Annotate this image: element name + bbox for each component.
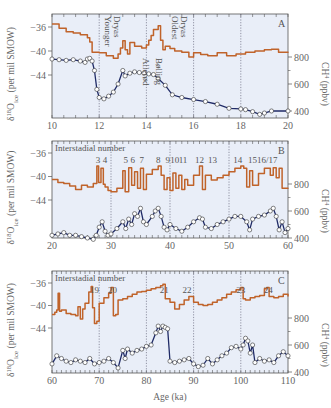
ch4-data-point bbox=[109, 232, 113, 236]
ch4-data-point bbox=[187, 356, 191, 360]
panel-letter: C bbox=[278, 275, 285, 286]
ch4-data-point bbox=[170, 93, 174, 97]
ch4-data-point bbox=[100, 220, 104, 224]
period-annotation: Bølling bbox=[154, 58, 164, 86]
x-tick-label: 10 bbox=[47, 120, 57, 131]
ch4-data-point bbox=[50, 57, 54, 61]
ch4-data-point bbox=[88, 356, 92, 360]
ch4-data-point bbox=[62, 231, 66, 235]
x-tick-label: 14 bbox=[141, 120, 151, 131]
ch4-data-point bbox=[215, 102, 219, 106]
ch4-data-point bbox=[168, 359, 172, 363]
right-y-tick-label: 800 bbox=[294, 179, 309, 190]
ch4-data-point bbox=[55, 354, 59, 358]
ch4-data-point bbox=[173, 360, 177, 364]
x-tick-label: 20 bbox=[283, 120, 293, 131]
ch4-data-point bbox=[241, 343, 245, 347]
ch4-data-point bbox=[174, 226, 178, 230]
ch4-data-point bbox=[111, 360, 115, 364]
ch4-data-point bbox=[50, 233, 54, 237]
x-tick-label: 80 bbox=[141, 375, 151, 386]
ch4-data-point bbox=[107, 356, 111, 360]
ch4-data-point bbox=[71, 58, 75, 62]
ch4-data-point bbox=[144, 222, 148, 226]
left-y-axis-label: δ18Oice (per mil SMOW) bbox=[5, 283, 21, 377]
ch4-data-point bbox=[182, 358, 186, 362]
ch4-data-point bbox=[251, 217, 255, 221]
right-y-tick-label: 800 bbox=[294, 52, 309, 63]
ch4-data-point bbox=[159, 214, 163, 218]
ch4-data-point bbox=[271, 206, 275, 210]
period-annotation: Oldest bbox=[170, 16, 180, 40]
left-y-tick-label: −44 bbox=[30, 323, 46, 334]
ch4-data-point bbox=[220, 354, 224, 358]
ch4-data-point bbox=[102, 97, 106, 101]
ch4-data-point bbox=[203, 99, 207, 103]
ch4-data-point bbox=[280, 220, 284, 224]
panel-A: 101214161820−36−40−44800600400δ18Oice (p… bbox=[5, 14, 331, 131]
ch4-data-point bbox=[94, 233, 98, 237]
ch4-data-point bbox=[149, 343, 153, 347]
ch4-data-point bbox=[116, 366, 120, 370]
x-tick-label: 16 bbox=[189, 120, 199, 131]
ch4-data-point bbox=[196, 365, 200, 369]
x-tick-label: 20 bbox=[47, 240, 57, 251]
ch4-data-point bbox=[90, 59, 94, 63]
ch4-data-point bbox=[186, 225, 190, 229]
ch4-data-point bbox=[276, 354, 280, 358]
ch4-data-point bbox=[123, 356, 127, 360]
panel-letter: B bbox=[278, 145, 285, 156]
x-tick-label: 100 bbox=[233, 375, 248, 386]
interstadial-label: 16/17 bbox=[257, 155, 278, 165]
interstadial-label: 12 bbox=[195, 155, 204, 165]
ch4-data-point bbox=[203, 225, 207, 229]
ch4-data-point bbox=[283, 231, 287, 235]
ch4-data-point bbox=[227, 106, 231, 110]
ch4-data-point bbox=[272, 360, 276, 364]
interstadial-label: 21 bbox=[160, 285, 169, 295]
right-y-axis-label: CH4 (ppbv) bbox=[319, 189, 330, 233]
ch4-data-point bbox=[130, 351, 134, 355]
ch4-data-point bbox=[103, 229, 107, 233]
interstadial-label: 23 bbox=[236, 285, 246, 295]
ch4-data-point bbox=[102, 359, 106, 363]
ch4-data-point bbox=[245, 220, 249, 224]
x-tick-label: 50 bbox=[224, 240, 234, 251]
ch4-data-point bbox=[127, 217, 131, 221]
ch4-data-point bbox=[97, 95, 101, 99]
ch4-data-point bbox=[74, 358, 78, 362]
ch4-data-point bbox=[262, 359, 266, 363]
ch4-data-point bbox=[239, 347, 243, 351]
left-y-tick-label: −40 bbox=[30, 300, 46, 311]
ch4-data-point bbox=[116, 82, 120, 86]
right-y-axis-label: CH4 (ppbv) bbox=[319, 62, 330, 106]
ch4-data-point bbox=[158, 329, 162, 333]
interstadial-label: 14 bbox=[233, 155, 243, 165]
right-y-tick-label: 400 bbox=[294, 233, 309, 244]
ch4-data-point bbox=[277, 228, 281, 232]
ch4-data-point bbox=[200, 217, 204, 221]
ch4-data-point bbox=[83, 360, 87, 364]
x-tick-label: 18 bbox=[236, 120, 246, 131]
interstadial-label: 6 bbox=[131, 155, 136, 165]
ch4-data-point bbox=[234, 344, 238, 348]
ch4-data-point bbox=[253, 360, 257, 364]
ch4-data-point bbox=[97, 225, 101, 229]
ch4-data-point bbox=[233, 214, 237, 218]
x-tick-label: 30 bbox=[106, 240, 116, 251]
ch4-data-point bbox=[209, 226, 213, 230]
ch4-data-point bbox=[258, 112, 262, 116]
ch4-data-point bbox=[68, 233, 72, 237]
interstadial-label: 4 bbox=[103, 155, 108, 165]
ch4-data-point bbox=[192, 362, 196, 366]
ch4-data-point bbox=[150, 214, 154, 218]
right-y-tick-label: 400 bbox=[294, 367, 309, 378]
ch4-data-point bbox=[274, 214, 278, 218]
ch4-data-point bbox=[251, 343, 255, 347]
ch4-data-point bbox=[78, 359, 82, 363]
ch4-data-point bbox=[239, 214, 243, 218]
ch4-data-point bbox=[286, 226, 290, 230]
ch4-data-point bbox=[133, 70, 137, 74]
ch4-data-point bbox=[135, 214, 139, 218]
ch4-data-point bbox=[251, 110, 255, 114]
